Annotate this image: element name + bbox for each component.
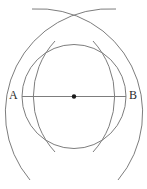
center-point-dot [72, 94, 76, 98]
point-label-a: A [9, 89, 18, 101]
construction-drawing [0, 0, 147, 189]
point-label-b: B [129, 89, 137, 101]
geometric-figure: A B [0, 0, 147, 189]
